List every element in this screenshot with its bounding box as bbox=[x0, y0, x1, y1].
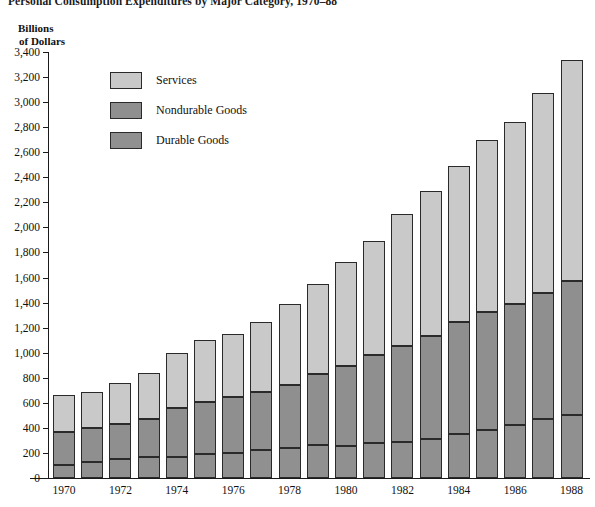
y-axis-tick-label: 1,800 bbox=[14, 246, 40, 258]
bar-segment-durable-1980 bbox=[335, 446, 357, 478]
bar-segment-nondurable-1976 bbox=[222, 397, 244, 453]
bar-1971[interactable] bbox=[81, 52, 103, 478]
bar-segment-nondurable-1970 bbox=[53, 432, 75, 465]
bar-segment-services-1979 bbox=[307, 284, 329, 374]
legend-label-nondurable-goods: Nondurable Goods bbox=[156, 103, 247, 118]
y-axis-caption-line1: Billions bbox=[18, 22, 65, 35]
y-axis-caption: Billions of Dollars bbox=[18, 22, 65, 47]
y-axis-tick bbox=[43, 428, 48, 429]
y-axis-tick bbox=[43, 252, 48, 253]
y-axis-tick-label: 0 bbox=[34, 472, 40, 484]
bar-segment-durable-1972 bbox=[109, 459, 131, 478]
bar-segment-services-1986 bbox=[504, 122, 526, 304]
bar-1978[interactable] bbox=[279, 52, 301, 478]
bar-segment-durable-1982 bbox=[391, 442, 413, 478]
y-axis-tick bbox=[43, 353, 48, 354]
bar-1979[interactable] bbox=[307, 52, 329, 478]
bar-segment-durable-1983 bbox=[420, 439, 442, 478]
bar-segment-durable-1988 bbox=[561, 415, 583, 478]
legend-label-services: Services bbox=[156, 73, 197, 88]
y-axis-tick bbox=[43, 278, 48, 279]
x-axis-label-1980: 1980 bbox=[335, 484, 358, 496]
y-axis-tick-label: 1,200 bbox=[14, 322, 40, 334]
bar-1970[interactable] bbox=[53, 52, 75, 478]
y-axis-tick bbox=[43, 227, 48, 228]
bar-segment-services-1976 bbox=[222, 334, 244, 397]
bar-segment-nondurable-1979 bbox=[307, 374, 329, 445]
y-axis-tick-label: 200 bbox=[23, 447, 40, 459]
y-axis-tick bbox=[43, 77, 48, 78]
y-axis-tick bbox=[43, 328, 48, 329]
bar-segment-durable-1977 bbox=[250, 450, 272, 478]
y-axis-tick bbox=[43, 102, 48, 103]
bar-segment-nondurable-1974 bbox=[166, 408, 188, 457]
y-axis-tick-label: 1,600 bbox=[14, 272, 40, 284]
bar-segment-nondurable-1984 bbox=[448, 322, 470, 434]
bar-segment-services-1974 bbox=[166, 353, 188, 408]
y-axis-tick-label: 3,400 bbox=[14, 46, 40, 58]
bar-1988[interactable] bbox=[561, 52, 583, 478]
bar-segment-durable-1976 bbox=[222, 453, 244, 478]
x-axis-label-1970: 1970 bbox=[53, 484, 76, 496]
chart-title: Personal Consumption Expenditures by Maj… bbox=[8, 0, 337, 7]
bar-segment-services-1981 bbox=[363, 241, 385, 355]
bar-1984[interactable] bbox=[448, 52, 470, 478]
bar-1986[interactable] bbox=[504, 52, 526, 478]
bar-segment-nondurable-1975 bbox=[194, 402, 216, 454]
y-axis-tick bbox=[43, 303, 48, 304]
bar-segment-durable-1978 bbox=[279, 448, 301, 478]
bar-1980[interactable] bbox=[335, 52, 357, 478]
x-axis-label-1982: 1982 bbox=[391, 484, 414, 496]
bar-segment-services-1973 bbox=[138, 373, 160, 419]
bar-segment-nondurable-1987 bbox=[532, 293, 554, 420]
bar-segment-nondurable-1986 bbox=[504, 304, 526, 426]
bar-segment-services-1982 bbox=[391, 214, 413, 346]
x-axis-line bbox=[30, 478, 590, 479]
bar-segment-services-1985 bbox=[476, 140, 498, 312]
bar-segment-durable-1986 bbox=[504, 425, 526, 478]
bar-segment-durable-1970 bbox=[53, 465, 75, 478]
bar-1985[interactable] bbox=[476, 52, 498, 478]
y-axis-tick-label: 2,600 bbox=[14, 146, 40, 158]
bar-segment-services-1988 bbox=[561, 60, 583, 282]
y-axis-tick bbox=[43, 478, 48, 479]
y-axis-tick bbox=[43, 403, 48, 404]
y-axis-tick-label: 1,400 bbox=[14, 297, 40, 309]
legend-swatch-durable-icon bbox=[110, 132, 142, 149]
bar-segment-services-1971 bbox=[81, 392, 103, 428]
bar-1987[interactable] bbox=[532, 52, 554, 478]
y-axis-tick bbox=[43, 177, 48, 178]
bar-segment-services-1978 bbox=[279, 304, 301, 385]
chart-page: Personal Consumption Expenditures by Maj… bbox=[0, 0, 595, 507]
bar-1982[interactable] bbox=[391, 52, 413, 478]
bar-segment-services-1987 bbox=[532, 93, 554, 293]
legend-swatch-services-icon bbox=[110, 72, 142, 89]
bar-1981[interactable] bbox=[363, 52, 385, 478]
y-axis-tick-label: 3,000 bbox=[14, 96, 40, 108]
y-axis-tick bbox=[43, 453, 48, 454]
bar-segment-nondurable-1985 bbox=[476, 312, 498, 430]
bar-segment-services-1980 bbox=[335, 262, 357, 366]
bar-segment-nondurable-1973 bbox=[138, 419, 160, 457]
bar-segment-services-1970 bbox=[53, 395, 75, 431]
y-axis-tick-label: 400 bbox=[23, 422, 40, 434]
bar-segment-durable-1973 bbox=[138, 457, 160, 478]
bar-segment-nondurable-1988 bbox=[561, 281, 583, 415]
y-axis-tick-label: 2,000 bbox=[14, 221, 40, 233]
y-axis-tick-label: 600 bbox=[23, 397, 40, 409]
bar-1983[interactable] bbox=[420, 52, 442, 478]
bar-segment-durable-1974 bbox=[166, 457, 188, 478]
bar-segment-services-1977 bbox=[250, 322, 272, 392]
bar-segment-durable-1971 bbox=[81, 462, 103, 478]
y-axis-tick-label: 2,800 bbox=[14, 121, 40, 133]
y-axis-tick bbox=[43, 127, 48, 128]
bar-segment-nondurable-1978 bbox=[279, 385, 301, 448]
y-axis-tick bbox=[43, 52, 48, 53]
x-axis-label-1984: 1984 bbox=[447, 484, 470, 496]
bar-segment-durable-1979 bbox=[307, 445, 329, 478]
bar-segment-services-1983 bbox=[420, 191, 442, 336]
y-axis-tick bbox=[43, 202, 48, 203]
x-axis-label-1974: 1974 bbox=[165, 484, 188, 496]
bar-1977[interactable] bbox=[250, 52, 272, 478]
bar-segment-services-1975 bbox=[194, 340, 216, 402]
